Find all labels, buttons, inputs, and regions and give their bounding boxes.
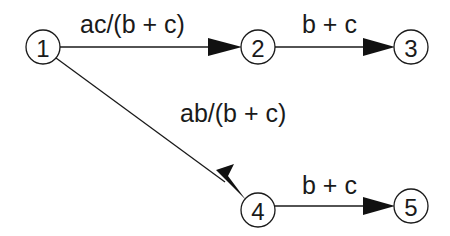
edge-label-4-5: b + c xyxy=(302,171,357,199)
arrowhead-icon xyxy=(208,38,242,56)
node-2: 2 xyxy=(241,30,275,64)
edge-label-1-2: ac/(b + c) xyxy=(80,10,185,38)
node-label-2: 2 xyxy=(251,35,264,62)
node-4: 4 xyxy=(241,193,275,227)
flow-diagram: ac/(b + c) b + c ab/(b + c) b + c 1 2 3 … xyxy=(0,0,450,236)
edge-1-4: ab/(b + c) xyxy=(56,58,286,200)
node-label-5: 5 xyxy=(404,194,417,221)
node-label-4: 4 xyxy=(251,198,264,225)
node-1: 1 xyxy=(26,30,60,64)
arrowhead-icon xyxy=(363,197,395,215)
arrowhead-icon xyxy=(363,38,395,56)
node-3: 3 xyxy=(394,30,428,64)
edge-1-2: ac/(b + c) xyxy=(60,10,242,56)
node-5: 5 xyxy=(394,189,428,223)
node-label-3: 3 xyxy=(404,35,417,62)
edge-2-3: b + c xyxy=(275,10,395,56)
node-label-1: 1 xyxy=(36,35,49,62)
arrowhead-icon xyxy=(216,164,246,200)
edge-label-1-4: ab/(b + c) xyxy=(180,99,286,127)
edge-4-5: b + c xyxy=(275,171,395,215)
edge-label-2-3: b + c xyxy=(302,10,357,38)
